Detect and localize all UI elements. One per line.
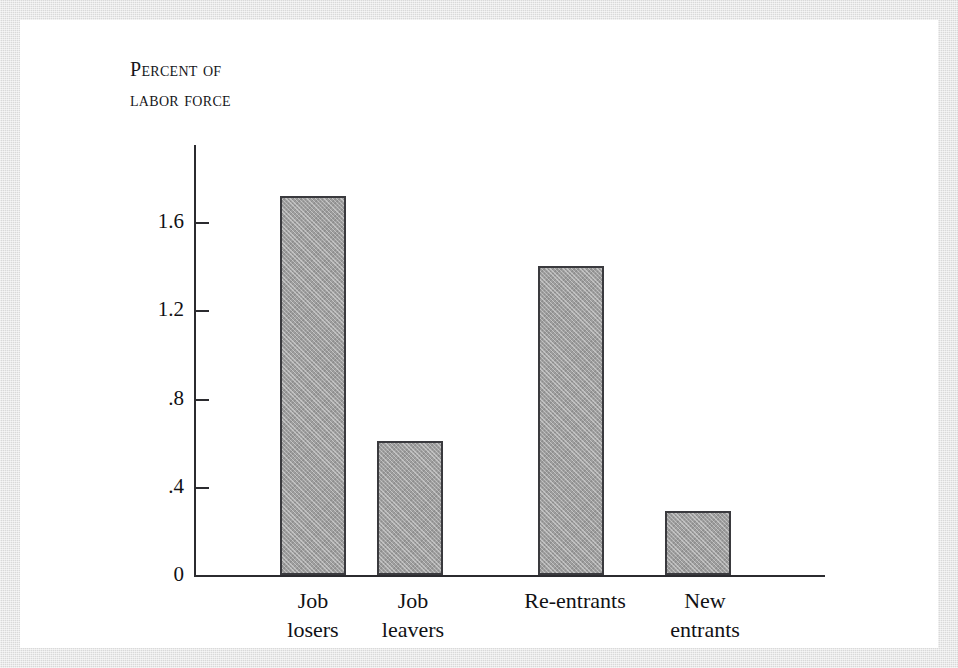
y-tick-mark [196,399,209,401]
y-tick-mark [196,310,209,312]
x-axis-line [194,575,825,577]
y-tick-label: .8 [138,388,184,409]
y-axis-line [194,145,196,577]
bar-new-entrants [665,511,731,575]
bar-job-leavers [377,441,443,576]
plot-card: Percent of labor force 0.4.81.21.6 Job l… [20,20,938,648]
y-tick-label: 1.2 [138,299,184,320]
category-label-job-leavers: Job leavers [320,586,506,644]
y-tick-mark [196,222,209,224]
y-tick-label: .4 [138,476,184,497]
bar-job-losers [280,196,346,575]
figure-container: Percent of labor force 0.4.81.21.6 Job l… [0,0,958,668]
y-tick-mark [196,487,209,489]
category-label-new-entrants: New entrants [612,586,798,644]
bar-re-entrants [538,266,604,575]
y-tick-label: 0 [138,564,184,585]
plot-area: 0.4.81.21.6 Job losersJob leaversRe-entr… [20,20,938,648]
y-tick-label: 1.6 [138,211,184,232]
